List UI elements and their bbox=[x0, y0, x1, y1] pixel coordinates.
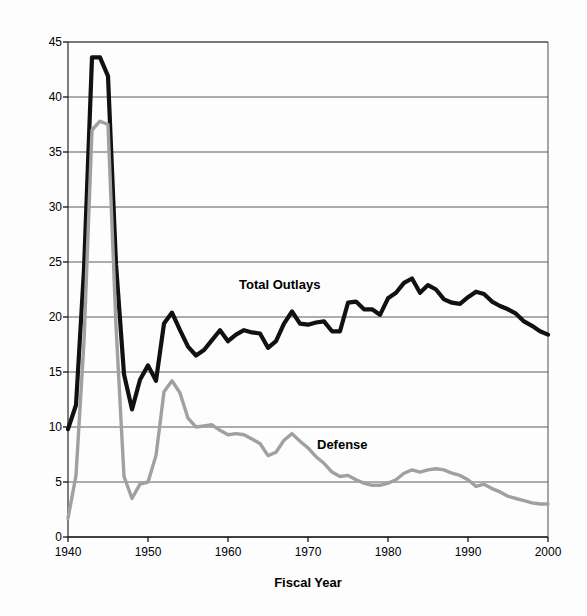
series-line-total-outlays bbox=[68, 57, 548, 429]
series-line-defense bbox=[68, 121, 548, 518]
chart-figure: Percent of GDP 051015202530354045 194019… bbox=[0, 0, 587, 616]
x-axis-title: Fiscal Year bbox=[68, 575, 548, 590]
series-label-defense: Defense bbox=[317, 437, 368, 452]
plot-area bbox=[0, 0, 587, 616]
series-label-total-outlays: Total Outlays bbox=[239, 277, 320, 292]
